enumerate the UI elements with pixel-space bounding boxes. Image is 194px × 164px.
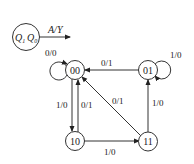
edge-label-01-01: 1/0: [170, 50, 182, 60]
state-00-label: 00: [70, 65, 80, 76]
edge-label-11-00: 0/1: [112, 96, 124, 106]
edge-00-00: [50, 62, 67, 80]
state-11-label: 11: [143, 136, 153, 147]
edge-label-00-10: 1/0: [56, 100, 68, 110]
edge-label-01-00: 0/1: [101, 58, 113, 68]
edge-label-00-00: 0/0: [45, 48, 57, 58]
state-10-label: 10: [70, 136, 80, 147]
state-00: 00: [66, 61, 85, 80]
state-01: 01: [139, 61, 158, 80]
state-diagram: Q1 Q0 A/Y 0/0 0/1 1/0 1/0 0/1 0/1 1/0 1/…: [0, 0, 194, 164]
state-10: 10: [66, 132, 85, 151]
legend: Q1 Q0 A/Y: [13, 24, 71, 51]
legend-io-label: A/Y: [47, 24, 64, 35]
state-01-label: 01: [143, 65, 153, 76]
edge-label-10-11: 1/0: [104, 147, 116, 157]
edge-label-11-01: 1/0: [152, 98, 164, 108]
state-11: 11: [139, 132, 158, 151]
edge-label-10-00: 0/1: [81, 100, 93, 110]
